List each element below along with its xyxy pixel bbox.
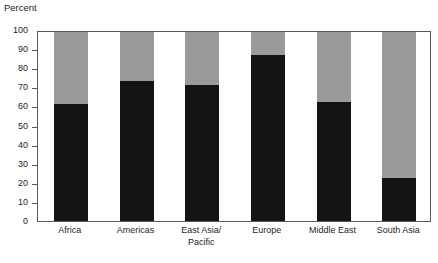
- bar-segment-upper: [120, 32, 154, 81]
- y-axis-tick-label: 90: [18, 44, 28, 55]
- x-axis-category-label-line1: Middle East: [309, 225, 356, 235]
- bar-group: [120, 32, 154, 221]
- x-axis-category-label-line1: East Asia/: [181, 225, 221, 235]
- y-axis-tick-label: 70: [18, 82, 28, 93]
- x-axis-category-label-line1: Europe: [252, 225, 281, 235]
- x-axis-category-label: Europe: [234, 225, 300, 237]
- bar-segment-upper: [185, 32, 219, 85]
- y-axis-tick-label: 10: [18, 197, 28, 208]
- bar-segment-lower: [317, 102, 351, 221]
- y-axis-tick-label: 80: [18, 63, 28, 74]
- bar-segment-lower: [185, 85, 219, 221]
- bar-stack: [185, 32, 219, 221]
- y-axis: 0102030405060708090100: [0, 31, 37, 222]
- bar-segment-upper: [251, 32, 285, 55]
- bar-group: [185, 32, 219, 221]
- bar-segment-lower: [382, 178, 416, 221]
- bar-segment-lower: [120, 81, 154, 221]
- y-axis-tick-label: 50: [18, 121, 28, 132]
- y-axis-tick-label: 30: [18, 159, 28, 170]
- bar-stack: [120, 32, 154, 221]
- x-axis-category-label-line1: Americas: [117, 225, 155, 235]
- x-axis-category-label: East Asia/Pacific: [168, 225, 234, 248]
- x-axis-category-label-line1: South Asia: [377, 225, 420, 235]
- y-axis-tick-label: 20: [18, 178, 28, 189]
- plot-area: [37, 31, 431, 222]
- y-axis-tick-label: 0: [23, 216, 28, 227]
- bar-segment-upper: [317, 32, 351, 102]
- bar-segment-upper: [382, 32, 416, 178]
- x-axis-category-label: Africa: [37, 225, 103, 237]
- bar-group: [382, 32, 416, 221]
- bar-segment-lower: [54, 104, 88, 221]
- x-axis-category-label: Middle East: [300, 225, 366, 237]
- x-axis-category-label-line1: Africa: [58, 225, 81, 235]
- y-axis-tick-label: 100: [13, 25, 28, 36]
- y-axis-tick-label: 60: [18, 101, 28, 112]
- stacked-bar-chart: Percent 0102030405060708090100 AfricaAme…: [0, 0, 438, 263]
- y-axis-title: Percent: [4, 2, 37, 14]
- x-axis-category-label: Americas: [103, 225, 169, 237]
- bars-layer: [38, 32, 430, 221]
- x-axis-category-label: South Asia: [365, 225, 431, 237]
- x-axis-category-label-line2: Pacific: [168, 237, 234, 249]
- bar-stack: [54, 32, 88, 221]
- bar-group: [54, 32, 88, 221]
- bar-segment-lower: [251, 55, 285, 221]
- bar-stack: [251, 32, 285, 221]
- bar-group: [251, 32, 285, 221]
- y-axis-tick-label: 40: [18, 140, 28, 151]
- x-axis-labels: AfricaAmericasEast Asia/PacificEuropeMid…: [37, 225, 431, 259]
- bar-segment-upper: [54, 32, 88, 104]
- bar-stack: [317, 32, 351, 221]
- bar-group: [317, 32, 351, 221]
- bar-stack: [382, 32, 416, 221]
